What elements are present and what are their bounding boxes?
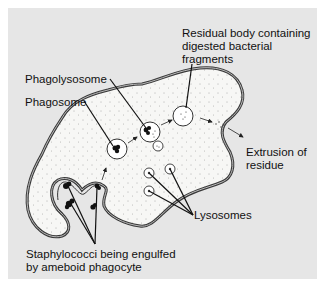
label-residual-body-2: digested bacterial bbox=[182, 40, 272, 53]
label-phagosome: Phagosome bbox=[25, 96, 86, 109]
label-residual-body-1: Residual body containing bbox=[182, 27, 311, 40]
label-staphylococci-1: Staphylococci being engulfed bbox=[26, 248, 176, 261]
label-extrusion-2: residue bbox=[246, 159, 284, 172]
label-phagolysosome: Phagolysosome bbox=[25, 73, 107, 86]
residual-body-icon bbox=[173, 106, 193, 126]
label-staphylococci-2: by ameboid phagocyte bbox=[26, 261, 142, 274]
label-extrusion-1: Extrusion of bbox=[246, 146, 307, 159]
label-residual-body-3: fragments bbox=[182, 53, 233, 66]
label-lysosomes: Lysosomes bbox=[194, 209, 252, 222]
